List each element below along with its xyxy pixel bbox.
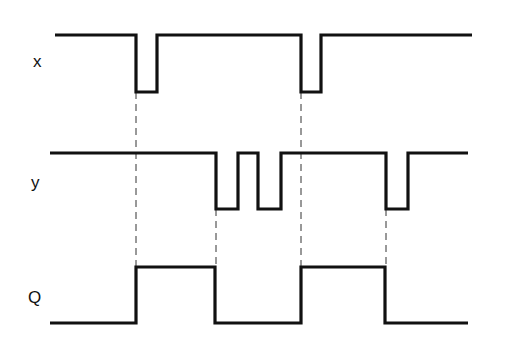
dashed-guide-lines xyxy=(136,92,386,267)
waveform-y xyxy=(50,153,468,209)
signal-label-y: y xyxy=(31,174,40,191)
signal-waveforms xyxy=(50,35,472,323)
signal-label-x: x xyxy=(33,53,42,70)
signal-label-q: Q xyxy=(28,289,41,306)
timing-diagram xyxy=(0,0,505,341)
waveform-x xyxy=(55,35,472,92)
waveform-q xyxy=(50,267,468,323)
